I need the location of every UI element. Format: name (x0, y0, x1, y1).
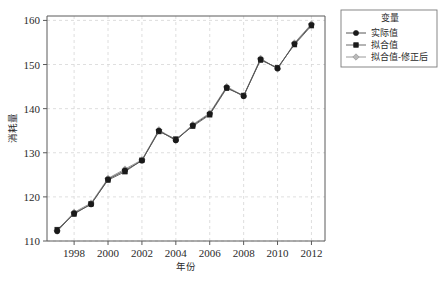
x-tick-label: 2008 (233, 247, 256, 259)
legend-title: 变量 (381, 12, 399, 23)
legend-item-label: 拟合值-修正后 (371, 51, 428, 62)
y-tick-label: 150 (24, 59, 41, 71)
legend-item-label: 实际值 (371, 27, 398, 38)
y-tick-label: 120 (24, 191, 41, 203)
legend-item-label: 拟合值 (371, 39, 398, 50)
data-point-marker (190, 123, 195, 128)
x-tick-label: 2012 (300, 247, 322, 259)
chart-container: 110120130140150160 199820002002200420062… (0, 0, 442, 291)
x-tick-label: 2006 (199, 247, 222, 259)
data-point-marker (275, 66, 280, 71)
chart-legend[interactable]: 变量实际值拟合值拟合值-修正后 (341, 10, 437, 67)
data-point-marker (173, 138, 178, 143)
x-axis-title: 年份 (176, 261, 196, 272)
data-point-marker (156, 128, 161, 133)
data-point-marker (354, 43, 359, 48)
y-axis-title: 消耗量 (7, 113, 18, 143)
x-tick-label: 1998 (63, 247, 86, 259)
data-point-marker (309, 22, 314, 27)
x-tick-label: 2004 (165, 247, 188, 259)
data-point-marker (88, 202, 93, 207)
y-tick-label: 140 (24, 103, 41, 115)
data-point-marker (258, 57, 263, 62)
y-tick-label: 160 (24, 14, 41, 26)
x-tick-label: 2002 (131, 247, 153, 259)
data-point-marker (207, 111, 212, 116)
data-point-marker (72, 211, 77, 216)
data-point-marker (105, 177, 110, 182)
data-point-marker (241, 94, 246, 99)
y-tick-label: 130 (24, 147, 41, 159)
data-point-marker (122, 168, 127, 173)
consumption-line-chart: 110120130140150160 199820002002200420062… (0, 0, 442, 291)
data-point-marker (139, 158, 144, 163)
x-tick-label: 2010 (267, 247, 290, 259)
y-tick-label: 110 (24, 235, 41, 247)
data-point-marker (55, 229, 60, 234)
data-point-marker (292, 41, 297, 46)
x-tick-label: 2000 (97, 247, 120, 259)
data-point-marker (224, 85, 229, 90)
data-point-marker (353, 30, 358, 35)
